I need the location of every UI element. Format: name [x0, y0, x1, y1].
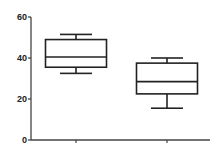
y-tick-label: 60 [17, 12, 27, 22]
box-group-2 [137, 58, 198, 108]
box-plot-chart: 0204060 [0, 0, 223, 155]
box-group-1 [46, 34, 107, 73]
y-tick-label: 20 [17, 94, 27, 104]
iqr-box [137, 63, 198, 94]
y-tick-label: 40 [17, 53, 27, 63]
box-series [46, 34, 198, 108]
iqr-box [46, 40, 107, 68]
y-tick-label: 0 [22, 135, 27, 145]
y-axis: 0204060 [17, 12, 31, 145]
x-axis [31, 140, 210, 143]
